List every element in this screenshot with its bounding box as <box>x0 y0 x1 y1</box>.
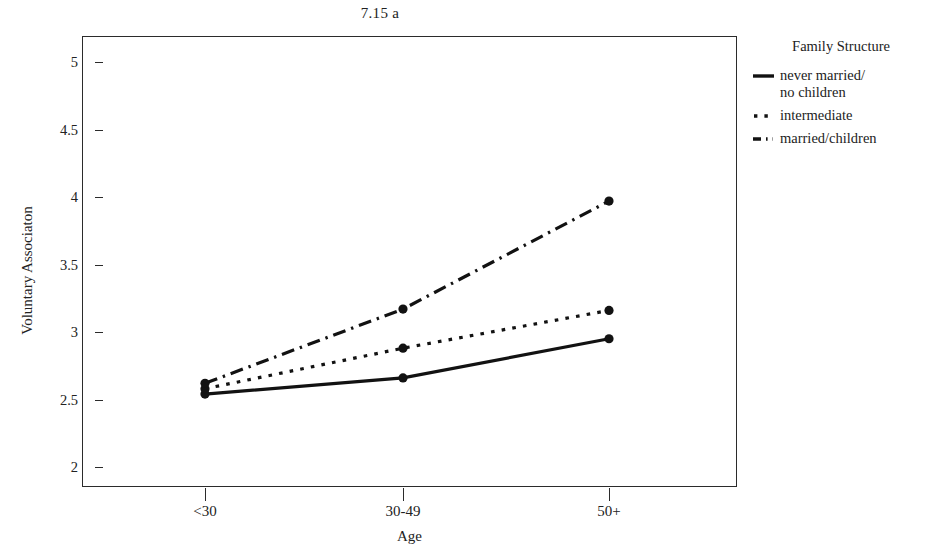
x-tick-mark <box>403 488 404 501</box>
legend-item-intermediate[interactable]: intermediate <box>752 107 938 124</box>
dotted-line-key <box>752 107 778 124</box>
y-tick-label: 2 <box>34 459 78 476</box>
y-tick-mark <box>95 130 103 131</box>
y-tick-label: 3 <box>34 324 78 341</box>
y-tick-label: 2.5 <box>34 391 78 408</box>
y-tick-mark <box>95 332 103 333</box>
x-axis-title: Age <box>82 528 737 545</box>
y-tick-mark <box>95 62 103 63</box>
y-tick-label: 4 <box>34 189 78 206</box>
x-tick-label: 50+ <box>549 503 669 520</box>
y-axis-title: Voluntary Associaton <box>19 151 36 391</box>
plot-area-frame <box>82 36 737 487</box>
legend-item-married-children[interactable]: married/children <box>752 130 938 147</box>
legend-item-label: intermediate <box>780 107 852 124</box>
y-tick-label: 3.5 <box>34 256 78 273</box>
chart-title: 7.15 a <box>0 5 760 22</box>
y-tick-mark <box>95 265 103 266</box>
legend-item-label: never married/ no children <box>780 67 865 101</box>
y-tick-label: 4.5 <box>34 121 78 138</box>
legend: Family Structure never married/ no child… <box>752 38 938 153</box>
x-tick-mark <box>609 488 610 501</box>
y-tick-mark <box>95 197 103 198</box>
y-tick-mark <box>95 400 103 401</box>
legend-item-label: married/children <box>780 130 877 147</box>
x-tick-label: 30-49 <box>343 503 463 520</box>
solid-line-key <box>752 67 778 84</box>
y-tick-mark <box>95 467 103 468</box>
x-tick-mark <box>205 488 206 501</box>
legend-title: Family Structure <box>752 38 938 55</box>
dash-dot-line-key <box>752 130 778 147</box>
legend-item-never-married[interactable]: never married/ no children <box>752 67 938 101</box>
chart-figure: 7.15 a 5 4.5 4 3.5 3 2.5 2 Voluntary Ass… <box>0 0 938 559</box>
y-tick-label: 5 <box>34 54 78 71</box>
x-tick-label: <30 <box>145 503 265 520</box>
